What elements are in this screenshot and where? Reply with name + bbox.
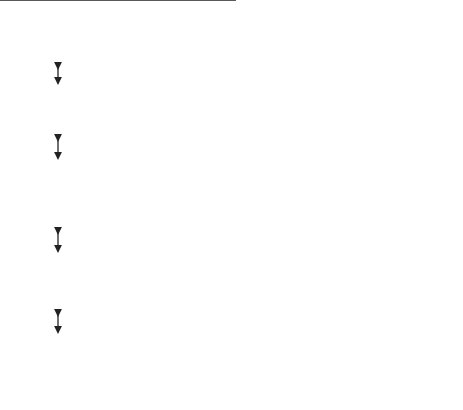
arrows-layer [0,0,463,410]
autoencoder-diagram [0,0,463,410]
